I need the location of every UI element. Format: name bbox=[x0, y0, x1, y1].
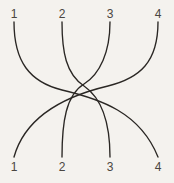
top-label-4: 4 bbox=[150, 7, 166, 21]
bottom-label-4: 4 bbox=[150, 160, 166, 174]
bottom-label-2: 2 bbox=[54, 160, 70, 174]
strand-2-to-3 bbox=[62, 22, 110, 157]
bottom-label-1: 1 bbox=[6, 160, 22, 174]
top-label-3: 3 bbox=[102, 7, 118, 21]
braid-diagram: 1 2 3 4 1 2 3 4 bbox=[0, 0, 174, 183]
top-label-2: 2 bbox=[54, 7, 70, 21]
strand-1-to-4 bbox=[14, 22, 158, 157]
top-label-1: 1 bbox=[6, 7, 22, 21]
bottom-label-3: 3 bbox=[102, 160, 118, 174]
strand-3-to-2 bbox=[62, 22, 110, 157]
strand-4-to-1 bbox=[14, 22, 158, 157]
braid-curves bbox=[0, 0, 174, 183]
